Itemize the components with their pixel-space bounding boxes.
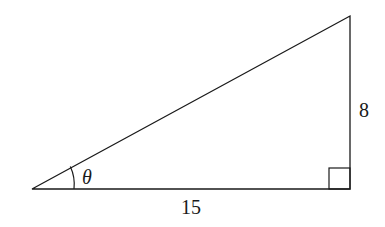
triangle-diagram xyxy=(0,0,385,227)
adjacent-side-label: 15 xyxy=(181,197,201,217)
angle-arc xyxy=(70,167,74,189)
right-angle-marker xyxy=(329,168,350,189)
triangle xyxy=(32,16,350,189)
angle-label-theta: θ xyxy=(82,167,92,187)
opposite-side-label: 8 xyxy=(359,100,369,120)
